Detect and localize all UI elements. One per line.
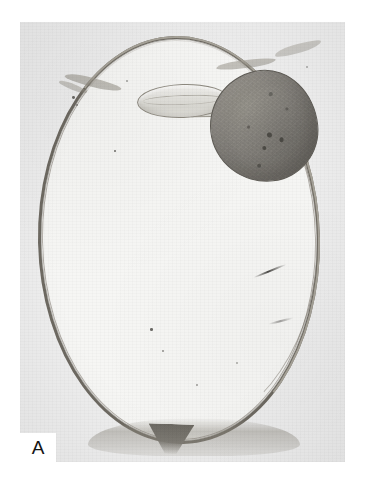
intraocular-mass (204, 65, 323, 188)
debris-speck (162, 350, 164, 352)
mass-focus (269, 92, 273, 96)
mass-focus (267, 132, 272, 137)
debris-speck (306, 66, 308, 68)
panel-label-letter: A (32, 438, 45, 457)
micrograph-plate (20, 22, 345, 462)
debris-speck (196, 384, 198, 386)
debris-speck (150, 328, 153, 331)
mass-focus (279, 137, 284, 142)
tissue-flap-upper-right (274, 38, 323, 60)
debris-speck (236, 362, 238, 364)
figure-root: A (0, 0, 365, 479)
eye-globe (30, 32, 330, 450)
panel-label: A (20, 433, 56, 462)
debris-speck (72, 96, 75, 99)
debris-speck (126, 80, 128, 82)
mass-focus (262, 146, 266, 150)
mass-texture (206, 66, 323, 186)
mass-focus (247, 125, 250, 128)
